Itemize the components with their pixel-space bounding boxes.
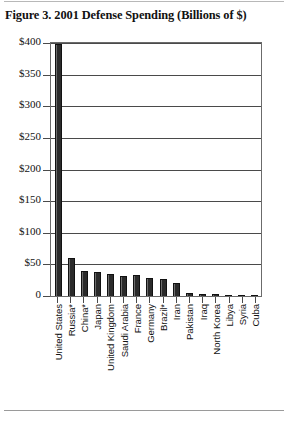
y-axis: $400$350$300$250$200$150$100$500 <box>0 42 50 297</box>
x-tick-mark <box>123 297 124 303</box>
bar-slot <box>222 43 235 296</box>
y-tick-mark <box>43 201 50 202</box>
bar-slot <box>78 43 91 296</box>
x-tick-slot <box>104 297 117 303</box>
x-tick-mark <box>70 297 71 303</box>
x-tick-slot <box>51 297 64 303</box>
y-axis-tick-label: $50 <box>25 256 42 268</box>
x-label-slot: Libya <box>222 304 235 416</box>
x-tick-mark <box>255 297 256 303</box>
bar-slot <box>157 43 170 296</box>
bar <box>81 271 88 296</box>
bar-slot <box>52 43 65 296</box>
x-tick-mark <box>176 297 177 303</box>
x-label-slot: Germany <box>143 304 156 416</box>
x-label-slot: United States <box>51 304 64 416</box>
y-axis-tick-label: $400 <box>19 35 41 47</box>
x-axis-tick-label: United Kingdom <box>105 304 116 371</box>
bar <box>186 293 193 296</box>
x-tick-mark <box>83 297 84 303</box>
bar-slot <box>248 43 261 296</box>
bar-slot <box>65 43 78 296</box>
x-tick-slot <box>64 297 77 303</box>
figure-container: Figure 3. 2001 Defense Spending (Billion… <box>0 0 288 422</box>
x-tick-mark <box>110 297 111 303</box>
y-axis-tick-label: $250 <box>19 130 41 142</box>
x-tick-mark <box>57 297 58 303</box>
bar-slot <box>170 43 183 296</box>
bar-slot <box>196 43 209 296</box>
x-label-slot: North Korea <box>209 304 222 416</box>
bar-slot <box>235 43 248 296</box>
x-axis-tick-label: Libya <box>224 304 235 326</box>
x-axis-tick-label: Iran <box>171 304 182 320</box>
x-tick-slot <box>209 297 222 303</box>
y-tick-mark <box>43 106 50 107</box>
bar <box>251 295 258 297</box>
x-label-slot: China* <box>77 304 90 416</box>
x-axis-tick-label: Japan <box>92 304 103 330</box>
y-tick-mark <box>43 75 50 76</box>
top-divider <box>4 1 284 2</box>
x-tick-mark <box>242 297 243 303</box>
x-axis-tick-label: North Korea <box>210 304 221 355</box>
bar <box>212 294 219 296</box>
y-axis-tick-label: $350 <box>19 67 41 79</box>
x-tick-slot <box>117 297 130 303</box>
x-tick-slot <box>236 297 249 303</box>
y-tick-mark <box>43 264 50 265</box>
x-label-slot: Russia* <box>64 304 77 416</box>
bar <box>120 276 127 296</box>
x-axis-tick-label: Brazil* <box>158 304 169 331</box>
x-label-slot: Brazil* <box>157 304 170 416</box>
x-label-slot: Cuba <box>249 304 262 416</box>
x-label-slot: Pakistan <box>183 304 196 416</box>
x-tick-mark <box>202 297 203 303</box>
x-axis: United StatesRussia*China*JapanUnited Ki… <box>50 297 262 417</box>
bar <box>68 258 75 296</box>
x-label-slot: Iran <box>170 304 183 416</box>
x-tick-mark <box>136 297 137 303</box>
x-label-slot: Iraq <box>196 304 209 416</box>
bar-slot <box>209 43 222 296</box>
bar-series <box>51 43 261 296</box>
x-label-slot: France <box>130 304 143 416</box>
x-axis-tick-label: Pakistan <box>184 304 195 340</box>
x-axis-labels: United StatesRussia*China*JapanUnited Ki… <box>50 304 262 416</box>
x-axis-tick-label: France <box>131 304 142 333</box>
bar-slot <box>117 43 130 296</box>
x-tick-slot <box>196 297 209 303</box>
bar <box>160 279 167 296</box>
x-tick-mark <box>229 297 230 303</box>
y-tick-mark <box>43 170 50 171</box>
x-tick-slot <box>222 297 235 303</box>
x-axis-tick-label: Germany <box>144 304 155 343</box>
bar <box>94 272 101 296</box>
plot-area <box>50 42 262 297</box>
x-tick-slot <box>249 297 262 303</box>
bar <box>146 278 153 296</box>
bar <box>238 295 245 297</box>
x-tick-slot <box>143 297 156 303</box>
y-axis-tick-label: $100 <box>19 225 41 237</box>
x-tick-slot <box>157 297 170 303</box>
bar <box>55 44 62 296</box>
y-axis-tick-label: $150 <box>19 193 41 205</box>
x-axis-tick-label: Iraq <box>197 304 208 320</box>
bar-slot <box>91 43 104 296</box>
x-tick-slot <box>183 297 196 303</box>
x-tick-mark <box>189 297 190 303</box>
bar-slot <box>143 43 156 296</box>
x-tick-mark <box>149 297 150 303</box>
y-axis-tick-label: 0 <box>36 288 42 300</box>
y-tick-mark <box>43 138 50 139</box>
x-label-slot: Syria <box>236 304 249 416</box>
bar <box>133 275 140 296</box>
x-tick-slot <box>130 297 143 303</box>
x-axis-tick-label: Cuba <box>250 304 261 327</box>
x-tick-slot <box>77 297 90 303</box>
bar <box>173 283 180 296</box>
x-axis-tick-label: China* <box>78 304 89 332</box>
x-label-slot: Japan <box>91 304 104 416</box>
x-axis-tick-label: United States <box>52 304 63 360</box>
